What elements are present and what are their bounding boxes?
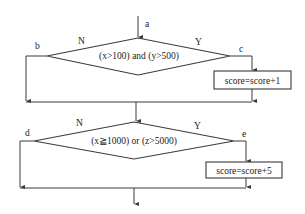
decision2-point-e: e (242, 129, 246, 139)
decision1-no-label: N (78, 36, 85, 46)
decision2-no-branch (20, 141, 34, 187)
decision2-no-label: N (76, 118, 83, 128)
decision2-yes-label: Y (194, 121, 201, 131)
decision1-point-c: c (239, 44, 243, 54)
decision1-yes-label: Y (195, 37, 202, 47)
decision2-condition: (x≧1000) or (z>5000) (91, 136, 177, 147)
action2-text: score=score+5 (216, 166, 272, 176)
decision1-point-b: b (35, 41, 40, 51)
flowchart-canvas: a (x>100) and (y>500) b N Y c score=scor… (0, 0, 305, 214)
entry-label: a (145, 19, 150, 29)
decision2-yes-branch (234, 141, 246, 161)
decision1-no-branch (26, 56, 47, 101)
decision1-condition: (x>100) and (y>500) (99, 51, 179, 62)
decision2-point-d: d (25, 128, 30, 138)
decision1-yes-branch (230, 56, 252, 70)
action1-text: score=score+1 (225, 76, 281, 86)
